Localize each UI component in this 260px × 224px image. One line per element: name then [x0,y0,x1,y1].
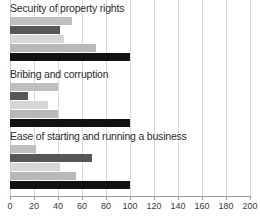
bar [10,181,130,189]
x-tick-label-120: 120 [141,201,167,211]
bar [10,154,92,162]
bar [10,101,48,109]
x-tick-120 [154,196,155,200]
x-tick-20 [34,196,35,200]
gridline-80 [106,0,107,196]
horizontal-bar-chart: Security of property rightsBribing and c… [0,0,260,224]
bar [10,53,130,61]
x-tick-200 [250,196,251,200]
x-tick-label-180: 180 [213,201,239,211]
bar-group-title: Security of property rights [10,2,124,14]
x-tick-label-0: 0 [0,201,23,211]
gridline-160 [202,0,203,196]
gridline-140 [178,0,179,196]
bar [10,83,58,91]
bar [10,110,58,118]
x-tick-label-40: 40 [45,201,71,211]
bar [10,35,64,43]
x-tick-80 [106,196,107,200]
gridline-180 [226,0,227,196]
x-tick-40 [58,196,59,200]
gridline-60 [82,0,83,196]
x-tick-label-100: 100 [117,201,143,211]
gridline-200 [250,0,251,196]
bar [10,92,28,100]
bar [10,26,60,34]
x-tick-label-20: 20 [21,201,47,211]
x-tick-0 [10,196,11,200]
bar [10,145,36,153]
x-tick-100 [130,196,131,200]
x-tick-180 [226,196,227,200]
x-tick-label-200: 200 [237,201,260,211]
x-tick-label-140: 140 [165,201,191,211]
plot-area: Security of property rightsBribing and c… [10,0,250,196]
bar [10,172,76,180]
bar [10,119,130,127]
bar [10,44,96,52]
bar-group-title: Ease of starting and running a business [10,130,187,142]
gridline-100 [130,0,131,196]
bar [10,163,60,171]
x-tick-label-60: 60 [69,201,95,211]
bar [10,17,72,25]
bar-group-title: Bribing and corruption [10,68,108,80]
x-tick-140 [178,196,179,200]
x-tick-label-160: 160 [189,201,215,211]
x-tick-60 [82,196,83,200]
x-tick-label-80: 80 [93,201,119,211]
gridline-120 [154,0,155,196]
x-tick-160 [202,196,203,200]
